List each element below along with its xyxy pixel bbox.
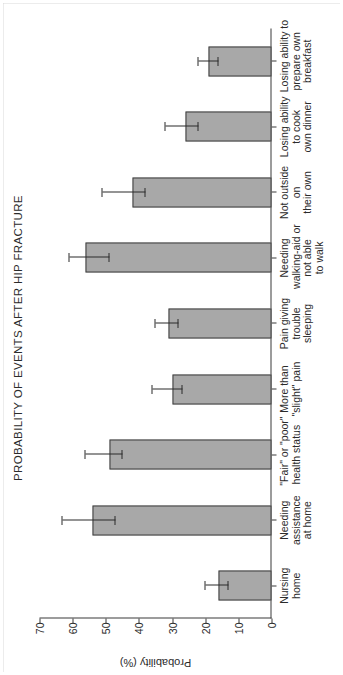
bar-group: Pain givingtroublesleeping <box>39 308 271 338</box>
value-axis-title: Probability (%) <box>119 656 191 668</box>
category-tick <box>271 126 276 127</box>
bar <box>172 374 271 404</box>
category-label-line: walking-aid or <box>290 226 302 288</box>
category-label-line: More than <box>278 358 290 420</box>
category-label-line: on <box>290 161 302 223</box>
error-bar-cap-lower <box>181 384 182 393</box>
category-label-line: health status <box>290 423 302 485</box>
category-label-line: their own <box>301 161 313 223</box>
category-label-line: own dinner <box>301 95 313 157</box>
category-label-line: breakfast <box>301 30 313 92</box>
error-bar-cap-lower <box>144 187 145 196</box>
category-label-line: Needing <box>278 489 290 551</box>
bar-group: Not outsideontheir own <box>39 177 271 207</box>
error-bar-line <box>62 519 115 520</box>
error-bar-line <box>152 388 182 389</box>
category-label-line: Nursing <box>278 554 290 616</box>
bar <box>92 505 271 535</box>
error-bar-cap-upper <box>101 187 102 196</box>
category-label: "Fair" or "poor"health status <box>278 423 301 485</box>
error-bar-cap-upper <box>84 450 85 459</box>
category-label: Not outsideontheir own <box>278 161 313 223</box>
plot-area: Probability (%) 010203040506070 Nursingh… <box>39 28 271 618</box>
category-tick <box>271 519 276 520</box>
bar <box>85 242 271 272</box>
error-bar-cap-upper <box>197 56 198 65</box>
category-label-line: to cook <box>290 95 302 157</box>
category-label-line: not able <box>301 226 313 288</box>
bar-group: "Fair" or "poor"health status <box>39 439 271 469</box>
error-bar-cap-lower <box>197 122 198 131</box>
bar-group: Losing abilityto cookown dinner <box>39 111 271 141</box>
category-label-line: Pain giving <box>278 292 290 354</box>
error-bar-cap-upper <box>204 581 205 590</box>
error-bar-cap-lower <box>108 253 109 262</box>
category-tick <box>271 454 276 455</box>
error-bar-line <box>155 322 178 323</box>
category-label-line: Losing ability to <box>278 30 290 92</box>
category-label: Needingwalking-aid ornot ableto walk <box>278 226 324 288</box>
category-label: Pain givingtroublesleeping <box>278 292 313 354</box>
tick-label: 0 <box>265 622 277 628</box>
category-tick <box>271 191 276 192</box>
error-bar-cap-upper <box>154 319 155 328</box>
category-label-line: "Fair" or "poor" <box>278 423 290 485</box>
error-bar-cap-lower <box>114 515 115 524</box>
bar <box>132 177 271 207</box>
figure-page: PROBABILITY OF EVENTS AFTER HIP FRACTURE… <box>0 0 343 675</box>
error-bar-cap-upper <box>68 253 69 262</box>
category-tick <box>271 257 276 258</box>
chart-figure: PROBABILITY OF EVENTS AFTER HIP FRACTURE… <box>3 3 340 672</box>
category-label-line: Losing ability <box>278 95 290 157</box>
bar-group: Nursinghome <box>39 570 271 600</box>
category-label: Nursinghome <box>278 554 301 616</box>
category-label-line: trouble <box>290 292 302 354</box>
tick-label: 60 <box>66 622 78 634</box>
category-label-line: Needing <box>278 226 290 288</box>
category-label-line: "slight" pain <box>290 358 302 420</box>
category-label-line: to walk <box>313 226 325 288</box>
error-bar-line <box>198 60 218 61</box>
category-label: Needingassistanceat home <box>278 489 313 551</box>
error-bar-cap-lower <box>227 581 228 590</box>
category-label-line: sleeping <box>301 292 313 354</box>
error-bar-cap-lower <box>177 319 178 328</box>
bar-group: More than"slight" pain <box>39 374 271 404</box>
tick-label: 70 <box>33 622 45 634</box>
error-bar-line <box>69 256 109 257</box>
bar-group: Needingwalking-aid ornot ableto walk <box>39 242 271 272</box>
chart-title: PROBABILITY OF EVENTS AFTER HIP FRACTURE <box>11 3 23 672</box>
category-tick <box>271 323 276 324</box>
rotated-figure-wrapper: PROBABILITY OF EVENTS AFTER HIP FRACTURE… <box>0 0 343 675</box>
category-tick <box>271 388 276 389</box>
category-label-line: at home <box>301 489 313 551</box>
category-label: More than"slight" pain <box>278 358 301 420</box>
error-bar-line <box>85 453 121 454</box>
error-bar-cap-lower <box>217 56 218 65</box>
category-label-line: home <box>290 554 302 616</box>
category-tick <box>271 60 276 61</box>
category-label-line: Not outside <box>278 161 290 223</box>
error-bar-line <box>205 584 228 585</box>
error-bar-cap-lower <box>121 450 122 459</box>
tick-label: 10 <box>232 622 244 634</box>
category-tick <box>271 585 276 586</box>
category-label-line: assistance <box>290 489 302 551</box>
bar-group: Losing ability toprepare ownbreakfast <box>39 46 271 76</box>
value-axis-line <box>39 617 271 618</box>
error-bar-line <box>102 191 145 192</box>
error-bar-cap-upper <box>61 515 62 524</box>
tick-label: 20 <box>199 622 211 634</box>
category-label: Losing abilityto cookown dinner <box>278 95 313 157</box>
bar <box>168 308 271 338</box>
error-bar-cap-upper <box>151 384 152 393</box>
tick-label: 50 <box>99 622 111 634</box>
category-label-line: prepare own <box>290 30 302 92</box>
error-bar-line <box>165 125 198 126</box>
tick-label: 30 <box>166 622 178 634</box>
category-label: Losing ability toprepare ownbreakfast <box>278 30 313 92</box>
bar <box>109 439 271 469</box>
tick-label: 40 <box>132 622 144 634</box>
bar-group: Needingassistanceat home <box>39 505 271 535</box>
error-bar-cap-upper <box>164 122 165 131</box>
